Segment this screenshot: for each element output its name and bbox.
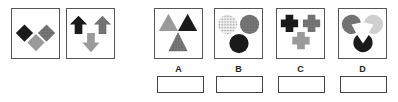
option-panel-b[interactable] [214, 8, 263, 59]
option-label-d: D [338, 64, 387, 74]
option-label-c: C [276, 64, 325, 74]
option-panel-c[interactable] [276, 8, 325, 59]
arrow-up-black-icon [70, 16, 87, 34]
answer-box-a[interactable] [157, 76, 204, 93]
option-label-a: A [154, 64, 203, 74]
example-panel-diamonds [11, 8, 60, 59]
cross-black-icon [281, 15, 298, 32]
answer-box-c[interactable] [278, 76, 325, 93]
option-label-b: B [214, 64, 263, 74]
diamond-black-icon [16, 24, 33, 41]
cross-light-icon [292, 32, 309, 49]
answer-box-b[interactable] [216, 76, 263, 93]
arrow-down-light-icon [82, 33, 99, 52]
arrow-up-dark-icon [94, 16, 111, 34]
triangle-light-icon [159, 14, 178, 31]
answer-box-d[interactable] [340, 76, 387, 93]
triangle-dark-icon [168, 32, 187, 51]
option-panel-d[interactable] [338, 8, 387, 59]
pacman-gray-icon [339, 12, 362, 37]
triangle-black-icon [178, 14, 197, 31]
circle-dotted-icon [218, 15, 237, 34]
circle-dark-icon [240, 15, 259, 34]
pacman-black-icon [353, 35, 372, 52]
cross-dark-icon [303, 15, 320, 32]
option-panel-a[interactable] [154, 8, 203, 59]
example-panel-arrows [66, 8, 115, 59]
pacman-light-icon [363, 12, 386, 37]
circle-black-icon [229, 34, 248, 53]
